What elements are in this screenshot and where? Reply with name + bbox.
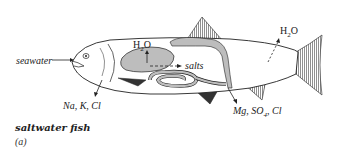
- label-kidney-ions: Mg, SO4, Cl: [233, 106, 282, 119]
- label-h2o-inner: H2O: [133, 40, 151, 53]
- label-seawater: seawater: [16, 56, 52, 66]
- tail-fin: [296, 35, 322, 95]
- figure-caption: saltwater fish: [15, 122, 91, 133]
- label-gill-ions: Na, K, Cl: [63, 101, 101, 111]
- dorsal-fin: [188, 17, 222, 40]
- label-h2o-outer: H2O: [280, 26, 298, 39]
- panel-label: (a): [15, 136, 27, 147]
- label-salts: salts: [185, 61, 203, 71]
